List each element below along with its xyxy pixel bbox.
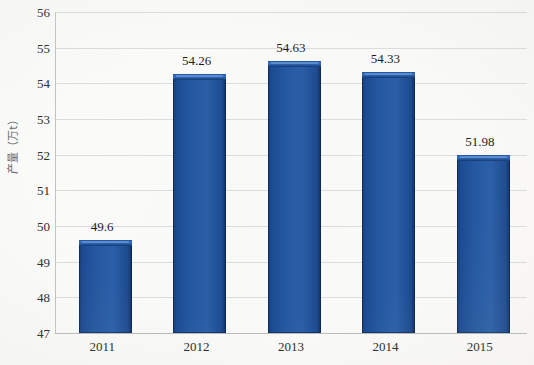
bar[interactable] (457, 155, 510, 333)
y-axis-tick-label: 50 (24, 220, 50, 233)
bar-value-label: 54.63 (244, 41, 338, 54)
x-axis-tick-label: 2012 (149, 340, 243, 353)
bar-group: 49.6 (55, 12, 149, 333)
y-axis-tick-label: 52 (24, 148, 50, 161)
bar-group: 51.98 (433, 12, 527, 333)
y-axis-tick-label: 56 (24, 6, 50, 19)
bar[interactable] (268, 61, 321, 333)
x-axis-tick-label: 2014 (338, 340, 432, 353)
bar-group: 54.63 (244, 12, 338, 333)
bar[interactable] (362, 72, 415, 333)
y-axis-tick-label: 53 (24, 113, 50, 126)
y-axis-tick-label: 48 (24, 291, 50, 304)
y-axis-tick-label: 49 (24, 255, 50, 268)
bar[interactable] (79, 240, 132, 333)
bar-group: 54.33 (338, 12, 432, 333)
bar-value-label: 54.33 (338, 52, 432, 65)
bar-top-highlight (362, 72, 415, 78)
bar-top-highlight (173, 74, 226, 80)
y-axis-tick-label: 55 (24, 41, 50, 54)
plot-area: 49.654.2654.6354.3351.98 (55, 12, 527, 333)
bar-value-label: 49.6 (55, 220, 149, 233)
bar-value-label: 54.26 (149, 54, 243, 67)
x-axis-tick-label: 2015 (433, 340, 527, 353)
gridline (55, 333, 527, 334)
x-axis-tick-labels: 20112012201320142015 (55, 340, 527, 362)
y-axis-tick-label: 47 (24, 327, 50, 340)
y-axis-tick-label: 54 (24, 77, 50, 90)
y-axis-tick-label: 51 (24, 184, 50, 197)
bar-top-highlight (457, 155, 510, 161)
y-axis-title: 产量（万t） (4, 94, 20, 194)
bar[interactable] (173, 74, 226, 333)
bar-group: 54.26 (149, 12, 243, 333)
x-axis-tick-label: 2011 (55, 340, 149, 353)
y-axis-tick-labels: 56555453525150494847 (22, 0, 50, 365)
bar-chart: 产量（万t） 56555453525150494847 49.654.2654.… (0, 0, 534, 365)
x-axis-tick-label: 2013 (244, 340, 338, 353)
bar-value-label: 51.98 (433, 135, 527, 148)
bar-top-highlight (268, 61, 321, 67)
bar-top-highlight (79, 240, 132, 246)
